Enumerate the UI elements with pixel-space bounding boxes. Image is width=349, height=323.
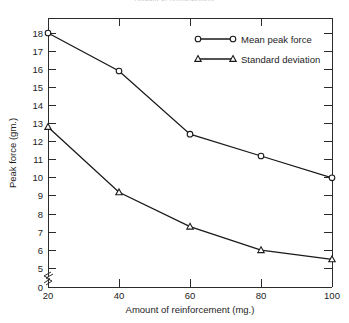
y-tick-label-5: 5 [38,263,43,274]
y-tick-label-8: 8 [38,209,43,220]
y-axis-ticks-right [324,33,332,268]
chart-legend: Mean peak force Standard deviation [195,34,320,65]
legend-item-standard-deviation[interactable]: Standard deviation [195,54,320,65]
chart-title: Amount of reinforcement [0,0,349,3]
legend-item-mean-peak-force[interactable]: Mean peak force [195,34,312,45]
y-tick-label-7: 7 [38,227,43,238]
series-standard-deviation [45,124,335,262]
data-point-marker [45,124,51,130]
y-tick-label-12: 12 [32,136,43,147]
x-axis-tick-labels: 20 40 60 80 100 [43,290,340,301]
y-tick-label-11: 11 [33,154,43,165]
x-tick-label-80: 80 [256,290,267,301]
y-tick-label-10: 10 [32,172,43,183]
chart-canvas: 18 17 16 15 14 13 12 11 10 9 8 7 6 5 0 [0,0,349,323]
legend-label: Mean peak force [241,34,312,45]
legend-label: Standard deviation [241,54,320,65]
y-axis-tick-labels: 18 17 16 15 14 13 12 11 10 9 8 7 6 5 0 [32,28,43,293]
y-tick-label-16: 16 [32,64,43,75]
y-tick-label-17: 17 [32,46,43,57]
data-point-marker [116,68,122,74]
y-tick-label-9: 9 [38,190,43,201]
x-tick-label-20: 20 [43,290,54,301]
data-point-marker [45,30,51,36]
y-tick-label-18: 18 [32,28,43,39]
x-tick-label-60: 60 [185,290,196,301]
data-point-marker [258,153,264,159]
circle-marker-icon [230,36,236,42]
y-axis-title: Peak force (gm.) [7,118,18,188]
data-point-marker [187,131,193,137]
series-standard-deviation-line [48,127,332,259]
data-point-marker [329,175,335,181]
y-tick-label-14: 14 [32,100,43,111]
circle-marker-icon [195,36,201,42]
y-tick-label-15: 15 [32,82,43,93]
x-axis-ticks-top [119,18,261,26]
y-axis-ticks [48,33,56,268]
y-tick-label-6: 6 [38,245,43,256]
x-axis-ticks [48,279,332,287]
x-tick-label-100: 100 [324,290,340,301]
figure-container: Amount of reinforcement [0,0,349,323]
y-tick-label-13: 13 [32,118,43,129]
x-axis-title: Amount of reinforcement (mg.) [126,304,255,315]
x-tick-label-40: 40 [114,290,125,301]
